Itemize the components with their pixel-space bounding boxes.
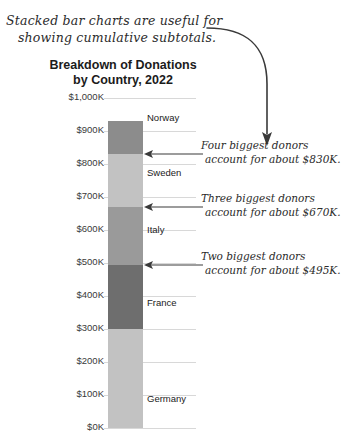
- callout-line-2: account for about $670K.: [201, 205, 341, 219]
- gridline: [104, 98, 196, 99]
- leader-arrow-icon: [143, 259, 205, 271]
- y-tick-label: $1,000K: [69, 91, 104, 102]
- bar-segment-label-germany: Germany: [147, 393, 186, 404]
- bar-segment-label-france: France: [147, 297, 177, 308]
- bar-segment-sweden[interactable]: [108, 154, 143, 207]
- y-tick-label: $600K: [77, 223, 104, 234]
- bar-segment-label-italy: Italy: [147, 224, 164, 235]
- callout-text: Three biggest donorsaccount for about $6…: [201, 191, 341, 219]
- y-tick-label: $400K: [77, 289, 104, 300]
- bar-segment-label-norway: Norway: [147, 112, 179, 123]
- y-tick-label: $300K: [77, 322, 104, 333]
- callout-line-2: account for about $495K.: [201, 263, 341, 277]
- y-tick-label: $900K: [77, 124, 104, 135]
- callout-line-2: account for about $830K.: [201, 152, 341, 166]
- callout-line-1: Two biggest donors: [201, 250, 306, 262]
- y-tick-label: $500K: [77, 256, 104, 267]
- y-tick-label: $100K: [77, 388, 104, 399]
- y-tick-label: $0K: [87, 421, 104, 432]
- chart-title: Breakdown of Donations by Country, 2022: [28, 58, 218, 88]
- handwritten-note-line-1: Stacked bar charts are useful for: [6, 13, 222, 28]
- curved-arrow-icon: [205, 22, 295, 152]
- bar-segment-france[interactable]: [108, 265, 143, 329]
- bar-segment-norway[interactable]: [108, 121, 143, 154]
- leader-arrow-icon: [143, 148, 205, 160]
- callout-line-1: Four biggest donors: [201, 139, 308, 151]
- callout-text: Two biggest donorsaccount for about $495…: [201, 249, 341, 277]
- bar-segment-germany[interactable]: [108, 329, 143, 428]
- y-tick-label: $700K: [77, 190, 104, 201]
- callout-line-1: Three biggest donors: [201, 192, 315, 204]
- chart-page: Stacked bar charts are useful for showin…: [0, 0, 352, 446]
- callout-text: Four biggest donorsaccount for about $83…: [201, 138, 341, 166]
- y-tick-label: $800K: [77, 157, 104, 168]
- y-tick-label: $200K: [77, 355, 104, 366]
- chart-title-line-2: by Country, 2022: [28, 73, 218, 88]
- bar-segment-label-sweden: Sweden: [147, 167, 181, 178]
- leader-arrow-icon: [143, 201, 205, 213]
- stacked-bar[interactable]: [108, 121, 143, 428]
- bar-segment-italy[interactable]: [108, 207, 143, 265]
- chart-title-line-1: Breakdown of Donations: [28, 58, 218, 73]
- gridline: [104, 428, 196, 429]
